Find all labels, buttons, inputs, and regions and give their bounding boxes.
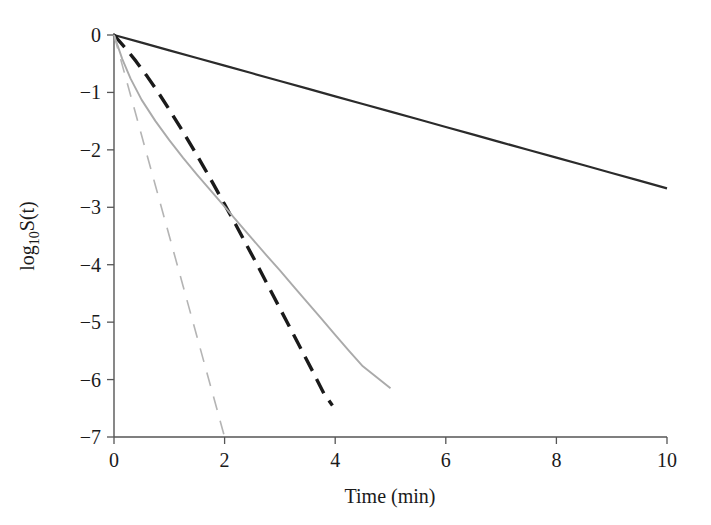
x-tick-label: 2 xyxy=(220,449,230,471)
y-tick-label: −2 xyxy=(80,139,101,161)
y-axis-title: log10S(t) xyxy=(16,201,42,271)
y-axis-title-subscript: 10 xyxy=(27,231,42,245)
x-tick-label: 10 xyxy=(657,449,677,471)
series-gray-dashed xyxy=(114,35,225,437)
survival-curve-chart: 0−1−2−3−4−5−6−70246810 Time (min) log10S… xyxy=(0,0,711,525)
x-tick-label: 8 xyxy=(551,449,561,471)
y-tick-label: −5 xyxy=(80,311,101,333)
chart-container: 0−1−2−3−4−5−6−70246810 Time (min) log10S… xyxy=(0,0,711,525)
x-axis-title-text: Time (min) xyxy=(345,485,436,508)
series-black-dashed xyxy=(114,35,332,405)
y-axis-title-text: log10S(t) xyxy=(16,201,42,271)
y-axis-title-base: log xyxy=(16,245,39,271)
tick-labels-group: 0−1−2−3−4−5−6−70246810 xyxy=(80,24,677,471)
series-black-solid xyxy=(114,35,667,188)
y-tick-label: −6 xyxy=(80,369,101,391)
y-tick-label: −4 xyxy=(80,254,101,276)
x-tick-label: 0 xyxy=(109,449,119,471)
x-tick-label: 4 xyxy=(330,449,340,471)
y-tick-label: −3 xyxy=(80,196,101,218)
y-tick-label: 0 xyxy=(91,24,101,46)
data-series-group xyxy=(114,35,667,437)
y-axis-title-tail: S(t) xyxy=(16,201,39,231)
x-axis-title: Time (min) xyxy=(345,485,436,508)
y-tick-label: −1 xyxy=(80,81,101,103)
series-gray-solid xyxy=(114,35,391,388)
x-tick-label: 6 xyxy=(441,449,451,471)
axes-group xyxy=(107,33,667,444)
y-tick-label: −7 xyxy=(80,426,101,448)
